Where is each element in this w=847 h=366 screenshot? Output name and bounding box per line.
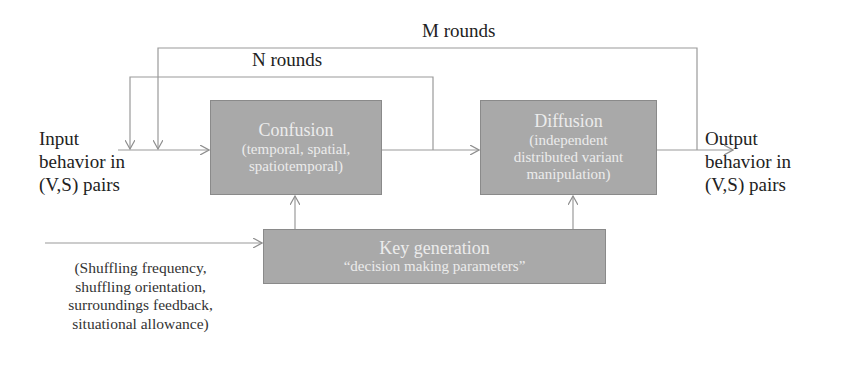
diffusion-title: Diffusion [534,111,603,132]
diffusion-subtitle: distributed variant [514,149,624,166]
key-parameter-line: situational allowance) [48,315,233,334]
diffusion-box: Diffusion (independent distributed varia… [480,100,657,195]
key-generation-title: Key generation [379,238,489,259]
n-rounds-label: N rounds [252,49,322,72]
diffusion-subtitle: manipulation) [526,166,610,183]
output-label-line: (V,S) pairs [705,174,791,197]
key-parameter-line: surroundings feedback, [48,296,233,315]
key-generation-box: Key generation “decision making paramete… [263,229,606,284]
output-label: Output behavior in (V,S) pairs [705,128,791,196]
key-parameters-text: (Shuffling frequency, shuffling orientat… [48,259,233,333]
key-parameter-line: (Shuffling frequency, [48,259,233,278]
confusion-subtitle: (temporal, spatial, [242,141,351,158]
confusion-title: Confusion [258,120,333,141]
confusion-box: Confusion (temporal, spatial, spatiotemp… [210,100,382,195]
confusion-subtitle: spatiotemporal) [249,158,343,175]
diffusion-subtitle: (independent [529,132,607,149]
input-label: Input behavior in (V,S) pairs [39,128,125,196]
key-generation-subtitle: “decision making parameters” [344,258,526,275]
output-label-line: behavior in [705,151,791,174]
input-label-line: (V,S) pairs [39,174,125,197]
output-label-line: Output [705,128,791,151]
input-label-line: behavior in [39,151,125,174]
input-label-line: Input [39,128,125,151]
key-parameter-line: shuffling orientation, [48,278,233,297]
m-rounds-label: M rounds [422,20,495,43]
